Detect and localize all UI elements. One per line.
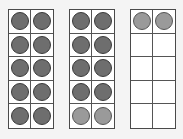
dark-counter-icon — [94, 83, 112, 101]
ten-frame-1 — [8, 9, 54, 129]
frame-cell — [131, 34, 153, 58]
frame-cell — [92, 81, 114, 105]
light-counter-icon — [155, 12, 173, 30]
frame-cell — [31, 104, 53, 128]
dark-counter-icon — [33, 12, 51, 30]
dark-counter-icon — [11, 12, 29, 30]
frame-cell — [70, 104, 92, 128]
dark-counter-icon — [33, 107, 51, 125]
frame-cell — [70, 10, 92, 34]
ten-frame-3 — [130, 9, 176, 129]
dark-counter-icon — [72, 59, 90, 77]
frame-cell — [70, 81, 92, 105]
ten-frame-2 — [69, 9, 115, 129]
frame-cell — [9, 81, 31, 105]
dark-counter-icon — [33, 83, 51, 101]
frame-cell — [131, 104, 153, 128]
frame-cell — [153, 10, 175, 34]
dark-counter-icon — [72, 12, 90, 30]
frame-cell — [9, 57, 31, 81]
frame-cell — [131, 10, 153, 34]
frame-cell — [153, 57, 175, 81]
dark-counter-icon — [72, 36, 90, 54]
dark-counter-icon — [33, 36, 51, 54]
dark-counter-icon — [33, 59, 51, 77]
frame-cell — [153, 104, 175, 128]
dark-counter-icon — [94, 59, 112, 77]
dark-counter-icon — [94, 12, 112, 30]
light-counter-icon — [72, 107, 90, 125]
frame-cell — [9, 34, 31, 58]
frame-cell — [70, 57, 92, 81]
frame-cell — [131, 57, 153, 81]
frame-cell — [9, 10, 31, 34]
frame-cell — [31, 10, 53, 34]
dark-counter-icon — [94, 36, 112, 54]
frame-cell — [131, 81, 153, 105]
dark-counter-icon — [11, 59, 29, 77]
frame-cell — [92, 10, 114, 34]
light-counter-icon — [94, 107, 112, 125]
dark-counter-icon — [11, 107, 29, 125]
frame-cell — [153, 34, 175, 58]
frame-cell — [31, 34, 53, 58]
light-counter-icon — [133, 12, 151, 30]
frame-cell — [153, 81, 175, 105]
frame-cell — [9, 104, 31, 128]
dark-counter-icon — [11, 36, 29, 54]
frame-cell — [31, 81, 53, 105]
frame-cell — [92, 57, 114, 81]
frame-cell — [92, 104, 114, 128]
frame-cell — [92, 34, 114, 58]
dark-counter-icon — [72, 83, 90, 101]
frame-cell — [70, 34, 92, 58]
dark-counter-icon — [11, 83, 29, 101]
frame-cell — [31, 57, 53, 81]
